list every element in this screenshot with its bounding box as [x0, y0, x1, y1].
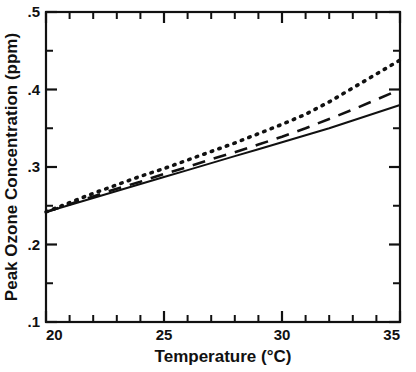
x-axis-title: Temperature (°C) [155, 347, 292, 366]
y-tick-label: .3 [27, 158, 40, 175]
y-tick-label: .5 [27, 3, 40, 20]
x-tick-label: 30 [274, 326, 291, 343]
y-tick-label: .1 [27, 313, 40, 330]
chart-figure: 20253035 .1.2.3.4.5 Temperature (°C) Pea… [0, 0, 416, 372]
ozone-temperature-line-chart: 20253035 .1.2.3.4.5 Temperature (°C) Pea… [0, 0, 416, 372]
y-tick-label: .4 [27, 81, 40, 98]
x-tick-label: 25 [156, 326, 173, 343]
y-tick-label: .2 [27, 236, 40, 253]
x-tick-label: 35 [383, 326, 400, 343]
x-tick-label: 20 [46, 326, 63, 343]
y-axis-title: Peak Ozone Concentration (ppm) [2, 33, 21, 301]
